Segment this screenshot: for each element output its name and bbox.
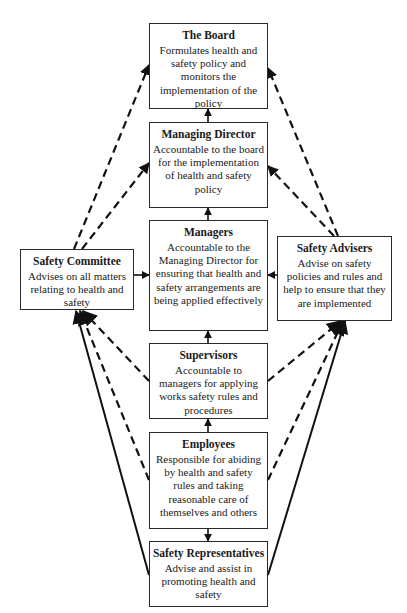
edge-advisers-to-board (268, 68, 338, 236)
node-description: Advise and assist in promoting health an… (150, 562, 267, 602)
edge-reps-to-advisers (268, 321, 345, 575)
node-description: Accountable to the board for the impleme… (150, 143, 267, 196)
node-description: Accountable to managers for applying wor… (150, 364, 267, 417)
node-description: Responsible for abiding by health and sa… (150, 453, 267, 519)
node-the-board: The Board Formulates health and safety p… (149, 23, 268, 109)
node-title: Supervisors (150, 348, 267, 362)
node-managing-director: Managing Director Accountable to the boa… (149, 122, 268, 208)
node-employees: Employees Responsible for abiding by hea… (149, 432, 268, 529)
node-safety-representatives: Safety Representatives Advise and assist… (149, 541, 268, 607)
node-title: Safety Representatives (150, 546, 267, 560)
node-title: Safety Committee (21, 254, 133, 268)
node-description: Advise on safety policies and rules and … (278, 257, 391, 310)
node-title: Managing Director (150, 127, 267, 141)
node-description: Formulates health and safety policy and … (150, 44, 267, 110)
edge-advisers-to-md (268, 166, 334, 236)
edge-reps-to-committee (76, 311, 149, 575)
node-safety-committee: Safety Committee Advises on all matters … (20, 249, 134, 310)
node-description: Accountable to the Managing Director for… (150, 241, 267, 307)
node-title: The Board (150, 28, 267, 42)
edge-employees-to-committee (80, 311, 149, 480)
node-description: Advises on all matters relating to healt… (21, 270, 133, 310)
health-safety-organisation-diagram: The Board Formulates health and safety p… (0, 0, 407, 613)
node-title: Safety Advisers (278, 241, 391, 255)
edge-employees-to-advisers (268, 321, 343, 480)
node-safety-advisers: Safety Advisers Advise on safety policie… (277, 236, 392, 321)
node-supervisors: Supervisors Accountable to managers for … (149, 343, 268, 419)
node-title: Managers (150, 225, 267, 239)
node-title: Employees (150, 437, 267, 451)
node-managers: Managers Accountable to the Managing Dir… (149, 220, 268, 331)
edge-committee-to-board (74, 65, 149, 249)
